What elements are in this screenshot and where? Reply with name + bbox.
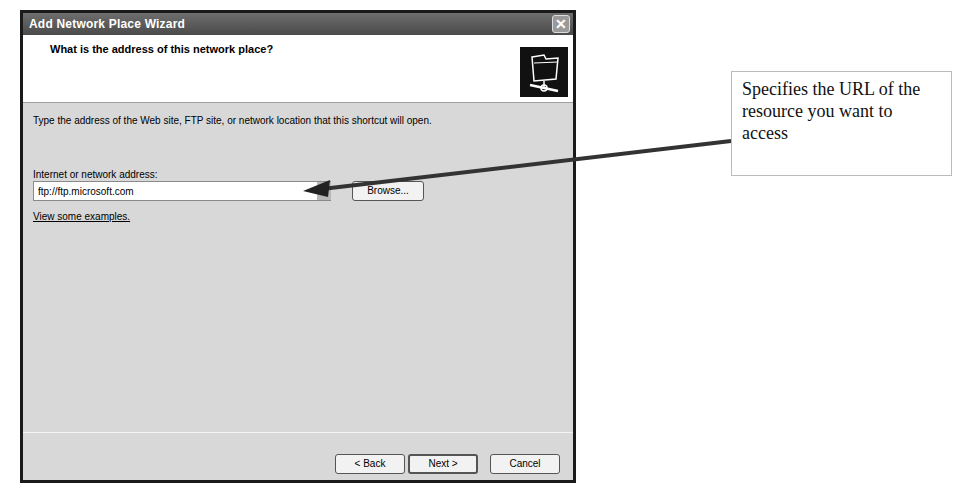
annotation-callout: Specifies the URL of the resource you wa… bbox=[731, 71, 952, 176]
